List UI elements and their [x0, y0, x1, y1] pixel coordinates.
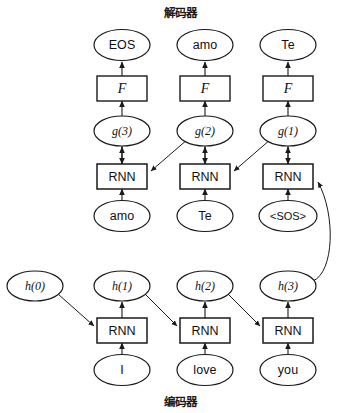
decoder-output-nodes: [94, 30, 316, 61]
decoder-input-node: [177, 201, 233, 232]
encoder-cell-boxes: [97, 318, 313, 343]
decoder-cell-boxes: [97, 164, 313, 189]
encoder-input-node: [94, 355, 150, 386]
decoder-cell-box: [97, 164, 147, 189]
decoder-cell-box: [263, 164, 313, 189]
decoder-transform-box: [97, 76, 147, 101]
encoder-cell-box: [180, 318, 230, 343]
decoder-state-node: [260, 116, 316, 146]
encoder-cell-box: [263, 318, 313, 343]
decoder-input-node: [94, 201, 150, 232]
edge-h2-to-enc-cell3: [228, 294, 260, 326]
decoder-state-node: [177, 116, 233, 146]
edge-h3-to-dec-cell1: [313, 182, 330, 281]
decoder-title: 解码器: [164, 4, 197, 20]
edge-h1-to-enc-cell2: [145, 294, 177, 326]
encoder-state-node: [177, 271, 233, 301]
decoder-transform-boxes: [97, 76, 313, 101]
seq2seq-diagram: 解码器 EOS amo Te F F F g(3) g(2) g(1) RNN …: [0, 0, 348, 413]
encoder-state-node: [260, 271, 316, 301]
context-feedback-edge: [313, 182, 330, 281]
decoder-input-node: [259, 201, 317, 232]
encoder-state-nodes: [7, 271, 316, 301]
encoder-input-node: [177, 355, 233, 386]
edge-h0-to-enc-cell1: [58, 294, 94, 326]
decoder-cell-box: [180, 164, 230, 189]
decoder-state-node: [94, 116, 150, 146]
encoder-title: 编码器: [164, 393, 197, 409]
decoder-transform-box: [263, 76, 313, 101]
diagram-canvas: [0, 0, 348, 413]
encoder-state-node: [7, 271, 63, 301]
decoder-output-node: [94, 30, 150, 61]
decoder-transform-box: [180, 76, 230, 101]
decoder-output-node: [260, 30, 316, 61]
decoder-state-nodes: [94, 116, 316, 146]
encoder-cell-box: [97, 318, 147, 343]
encoder-input-nodes: [94, 355, 316, 386]
decoder-input-nodes: [94, 201, 317, 232]
encoder-state-node: [94, 271, 150, 301]
encoder-input-node: [260, 355, 316, 386]
decoder-output-node: [177, 30, 233, 61]
